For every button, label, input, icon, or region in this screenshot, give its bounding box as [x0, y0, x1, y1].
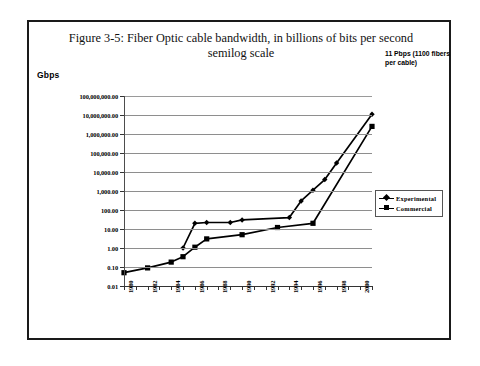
x-axis-tickmark: [148, 286, 149, 290]
series-commercial: [121, 124, 374, 276]
x-axis-tickmark: [218, 286, 219, 290]
y-axis-tick-label: 0.10: [30, 264, 118, 271]
y-axis-tick-label: 100,000.00: [30, 150, 118, 157]
gridline: [124, 191, 372, 192]
legend: Experimental Commercial: [375, 190, 443, 217]
figure-frame: Figure 3-5: Fiber Optic cable bandwidth,…: [27, 20, 451, 340]
x-axis-tickmark: [183, 286, 184, 290]
x-axis-tickmark: [136, 286, 137, 290]
x-axis-tickmark: [289, 286, 290, 290]
gridline: [124, 115, 372, 116]
legend-label-experimental: Experimental: [394, 195, 436, 202]
x-axis-tickmark: [195, 286, 196, 290]
y-axis-tick-label: 10,000.00: [30, 169, 118, 176]
legend-item-commercial[interactable]: Commercial: [379, 203, 439, 213]
gridline: [124, 134, 372, 135]
y-axis-tick-label: 10.00: [30, 226, 118, 233]
x-axis-tickmark: [124, 286, 125, 290]
y-axis-tick-label: 10,000,000.00: [30, 112, 118, 119]
y-axis-tick-label: 1.00: [30, 245, 118, 252]
y-axis-tick-label: 0.01: [30, 283, 118, 290]
series-line: [124, 126, 372, 272]
x-axis-tickmark: [266, 286, 267, 290]
gridline: [124, 153, 372, 154]
x-axis-tickmark: [159, 286, 160, 290]
x-axis-tick-label: 1984: [174, 281, 181, 293]
y-axis-tick-label: 100,000,000.00: [30, 93, 118, 100]
gridline: [124, 96, 372, 97]
gridline: [124, 172, 372, 173]
x-axis-tickmark: [372, 286, 373, 290]
x-axis-tick-label: 2000: [363, 281, 370, 293]
x-axis-tickmark: [254, 286, 255, 290]
data-point-marker: [192, 221, 197, 226]
y-axis-tick-label: 1,000,000.00: [30, 131, 118, 138]
data-point-marker: [310, 221, 315, 226]
gridline: [124, 248, 372, 249]
x-axis-tickmark: [242, 286, 243, 290]
x-axis-tickmark: [301, 286, 302, 290]
legend-item-experimental[interactable]: Experimental: [379, 193, 439, 203]
x-axis-tickmark: [207, 286, 208, 290]
x-axis-tickmark: [348, 286, 349, 290]
data-point-marker: [369, 124, 374, 129]
y-axis-tick-label: 1,000.00: [30, 188, 118, 195]
data-point-marker: [204, 236, 209, 241]
legend-label-commercial: Commercial: [394, 205, 432, 212]
x-axis-tickmark: [171, 286, 172, 290]
x-axis-tick-label: 1988: [221, 281, 228, 293]
x-axis-tick-label: 1996: [316, 281, 323, 293]
y-axis-tick-label: 100.00: [30, 207, 118, 214]
x-axis-tick-label: 1994: [292, 281, 299, 293]
data-point-marker: [240, 232, 245, 237]
x-axis-tick-label: 1986: [198, 281, 205, 293]
x-axis-tick-label: 1980: [127, 281, 134, 293]
x-axis-tick-label: 1992: [269, 281, 276, 293]
x-axis-tick-label: 1990: [245, 281, 252, 293]
gridline: [124, 210, 372, 211]
x-axis-tick-label: 1982: [151, 281, 158, 293]
x-axis-tickmark: [360, 286, 361, 290]
data-point-marker: [204, 220, 209, 225]
data-point-marker: [239, 217, 244, 222]
legend-marker-diamond-icon: [379, 193, 394, 203]
plot-area: 100,000,000.0010,000,000.001,000,000.001…: [29, 22, 453, 342]
x-axis-tickmark: [337, 286, 338, 290]
y-axis-line: [124, 96, 125, 286]
data-point-marker: [180, 254, 185, 259]
x-axis-tickmark: [325, 286, 326, 290]
legend-marker-square-icon: [379, 203, 394, 213]
data-point-marker: [169, 260, 174, 265]
gridline: [124, 267, 372, 268]
data-point-marker: [228, 220, 233, 225]
series-layer: [29, 22, 453, 342]
x-axis-tick-label: 1998: [340, 281, 347, 293]
x-axis-tickmark: [278, 286, 279, 290]
gridline: [124, 229, 372, 230]
x-axis-tickmark: [313, 286, 314, 290]
x-axis-tickmark: [230, 286, 231, 290]
annotation-label: 11 Pbps (1100 fibers per cable): [385, 50, 451, 67]
